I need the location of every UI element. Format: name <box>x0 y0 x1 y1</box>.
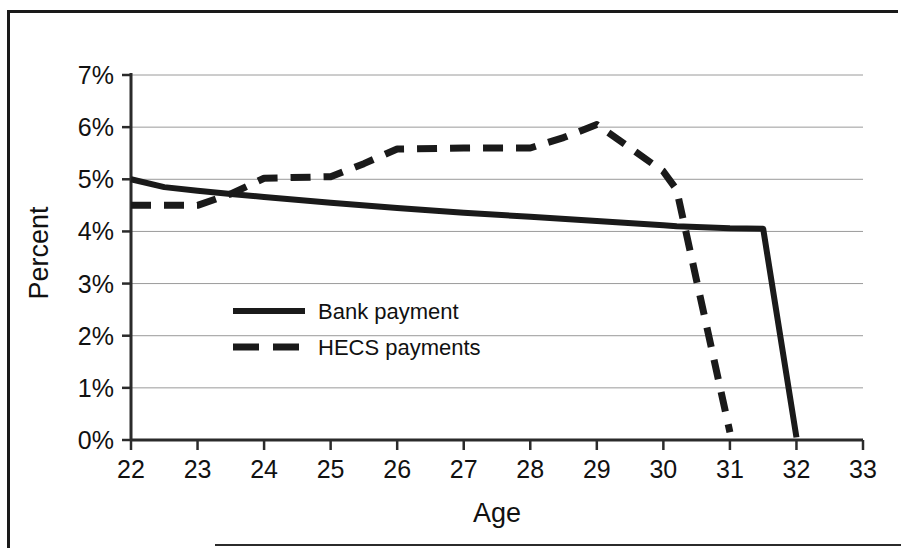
x-axis-tick-label: 27 <box>450 455 478 483</box>
line-chart: 0%1%2%3%4%5%6%7% 22232425262728293031323… <box>0 0 905 555</box>
x-axis-tick-label: 30 <box>649 455 677 483</box>
x-axis-tick-label: 26 <box>383 455 411 483</box>
x-axis-tick-label: 31 <box>716 455 744 483</box>
legend-label-bank-payment: Bank payment <box>318 299 459 324</box>
series-bank-payment <box>131 179 796 437</box>
x-axis-tick-label: 25 <box>317 455 345 483</box>
legend-label-hecs-payments: HECS payments <box>318 335 481 360</box>
y-axis-tick-label: 5% <box>78 165 114 193</box>
y-axis-tick-label: 3% <box>78 270 114 298</box>
chart-figure: 0%1%2%3%4%5%6%7% 22232425262728293031323… <box>0 0 905 555</box>
x-axis-tick-label: 23 <box>184 455 212 483</box>
chart-legend: Bank payment HECS payments <box>233 299 481 360</box>
y-axis-tick-label: 7% <box>78 61 114 89</box>
y-axis-tick-label: 4% <box>78 217 114 245</box>
x-axis-tick-label: 22 <box>117 455 145 483</box>
x-axis-title: Age <box>473 498 521 528</box>
x-axis-tick-label: 33 <box>849 455 877 483</box>
x-axis-tick-label: 29 <box>583 455 611 483</box>
y-axis-tick-label: 2% <box>78 322 114 350</box>
series-line-bank-payment <box>131 179 796 437</box>
y-axis-tick-label: 0% <box>78 426 114 454</box>
y-axis-tick-label: 1% <box>78 374 114 402</box>
y-axis-title: Percent <box>24 206 54 300</box>
x-axis-tick-label: 24 <box>250 455 278 483</box>
series-line-hecs-payments <box>131 125 730 433</box>
y-axis-tick-label: 6% <box>78 113 114 141</box>
x-axis-tick-label: 32 <box>783 455 811 483</box>
x-axis-tick-label: 28 <box>516 455 544 483</box>
y-axis-tick-labels: 0%1%2%3%4%5%6%7% <box>78 61 114 454</box>
series-hecs-payments <box>131 125 730 433</box>
x-axis-tick-labels: 222324252627282930313233 <box>117 455 877 483</box>
